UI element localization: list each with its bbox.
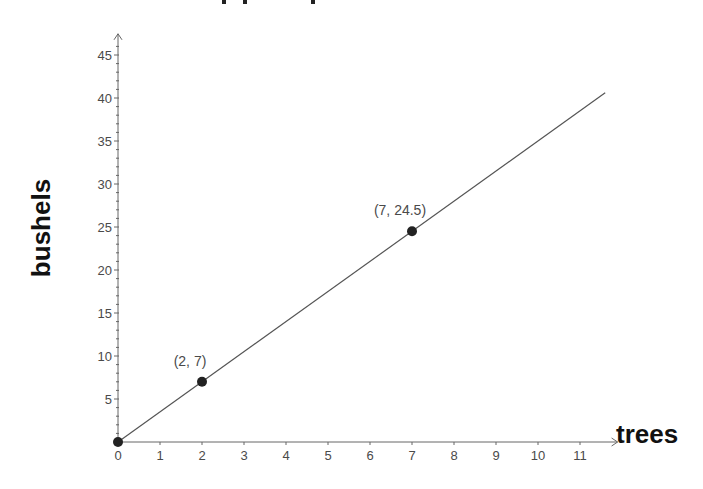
y-tick-label: 35 xyxy=(98,134,112,149)
x-tick-label: 2 xyxy=(198,448,205,463)
x-tick-label: 0 xyxy=(114,448,121,463)
y-tick-label: 15 xyxy=(98,306,112,321)
point-label: (2, 7) xyxy=(174,353,207,369)
title-fragment xyxy=(222,0,315,4)
data-point xyxy=(113,437,123,447)
x-tick-label: 9 xyxy=(492,448,499,463)
y-tick-label: 30 xyxy=(98,177,112,192)
x-tick-label: 11 xyxy=(573,448,587,463)
x-tick-label: 10 xyxy=(531,448,545,463)
y-tick-label: 40 xyxy=(98,91,112,106)
x-tick-label: 8 xyxy=(450,448,457,463)
x-tick-label: 3 xyxy=(240,448,247,463)
axes xyxy=(114,34,618,446)
y-tick-label: 25 xyxy=(98,220,112,235)
y-tick-label: 45 xyxy=(98,48,112,63)
chart-canvas: 5101520253035404501234567891011 (2, 7)(7… xyxy=(0,0,703,489)
data-point xyxy=(197,377,207,387)
data-points: (2, 7)(7, 24.5) xyxy=(113,202,426,447)
x-axis-title: trees xyxy=(616,419,678,449)
x-tick-label: 4 xyxy=(282,448,289,463)
x-tick-label: 1 xyxy=(156,448,163,463)
y-tick-label: 10 xyxy=(98,349,112,364)
x-tick-label: 6 xyxy=(366,448,373,463)
data-point xyxy=(407,226,417,236)
series-line xyxy=(118,93,605,442)
y-tick-label: 5 xyxy=(105,392,112,407)
x-tick-label: 7 xyxy=(408,448,415,463)
y-axis-title: bushels xyxy=(26,179,56,277)
data-series xyxy=(118,93,605,442)
ticks: 5101520253035404501234567891011 xyxy=(98,46,587,463)
x-tick-label: 5 xyxy=(324,448,331,463)
y-tick-label: 20 xyxy=(98,263,112,278)
point-label: (7, 24.5) xyxy=(374,202,426,218)
